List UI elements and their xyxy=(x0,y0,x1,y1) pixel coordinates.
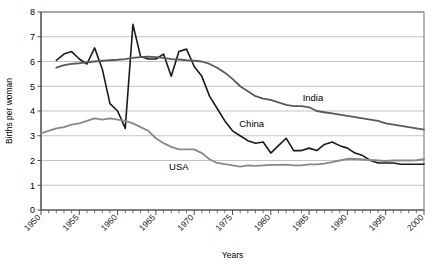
x-tick-label: 1965 xyxy=(137,212,158,233)
fertility-line-chart: 0123456781950195519601965197019751980198… xyxy=(0,0,440,268)
x-tick-label: 1980 xyxy=(252,212,273,233)
x-tick-label: 2000 xyxy=(405,212,426,233)
y-tick-label: 5 xyxy=(30,82,35,92)
y-tick-label: 2 xyxy=(30,156,35,166)
x-tick-label: 1955 xyxy=(60,212,81,233)
y-tick-label: 7 xyxy=(30,32,35,42)
series-label-china: China xyxy=(239,118,265,129)
x-axis-title: Years xyxy=(222,250,243,260)
y-tick-label: 8 xyxy=(30,7,35,17)
series-label-india: India xyxy=(303,92,324,103)
x-tick-label: 1975 xyxy=(213,212,234,233)
y-tick-label: 6 xyxy=(30,57,35,67)
x-tick-label: 1950 xyxy=(22,212,43,233)
chart-container: 0123456781950195519601965197019751980198… xyxy=(0,0,440,268)
x-tick-label: 1995 xyxy=(367,212,388,233)
series-label-usa: USA xyxy=(169,161,189,172)
y-tick-label: 1 xyxy=(30,181,35,191)
y-axis-title: Births per woman xyxy=(4,78,14,144)
y-tick-label: 3 xyxy=(30,131,35,141)
x-tick-label: 1985 xyxy=(290,212,311,233)
y-tick-label: 4 xyxy=(30,106,35,116)
x-tick-label: 1990 xyxy=(328,212,349,233)
x-tick-label: 1970 xyxy=(175,212,196,233)
x-tick-label: 1960 xyxy=(99,212,120,233)
